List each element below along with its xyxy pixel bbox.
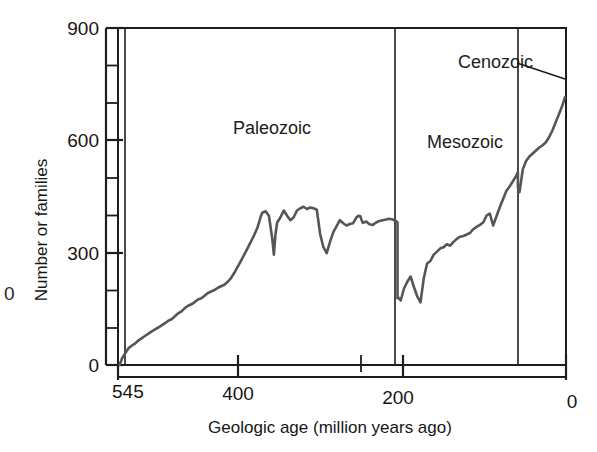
plot-frame	[118, 28, 566, 365]
plot-border	[118, 28, 566, 365]
era-label-paleozoic: Paleozoic	[233, 118, 311, 138]
y-tick-label-300: 300	[67, 243, 99, 264]
x-tick-label-200: 200	[382, 387, 414, 408]
y-tick-label-0: 0	[88, 355, 99, 376]
x-tick-label-545: 545	[112, 381, 144, 402]
era-label-mesozoic: Mesozoic	[427, 132, 503, 152]
era-labels: Paleozoic Mesozoic Cenozoic	[233, 52, 565, 152]
era-label-cenozoic: Cenozoic	[458, 52, 533, 72]
x-tick-label-400: 400	[222, 383, 254, 404]
diversity-curve-chart: 900 600 300 0 Number or families 545 400…	[0, 0, 597, 452]
x-axis: 545 400 200 0 Geologic age (million year…	[112, 355, 577, 437]
x-axis-title: Geologic age (million years ago)	[208, 418, 452, 437]
era-dividers	[125, 28, 518, 365]
edge-artifact-digit: 0	[4, 283, 15, 304]
y-axis: 900 600 300 0 Number or families	[32, 18, 123, 376]
x-tick-label-0: 0	[567, 391, 578, 412]
figure-container: 900 600 300 0 Number or families 545 400…	[0, 0, 597, 452]
y-axis-title: Number or families	[32, 159, 51, 302]
y-tick-label-600: 600	[67, 130, 99, 151]
y-tick-label-900: 900	[67, 18, 99, 39]
